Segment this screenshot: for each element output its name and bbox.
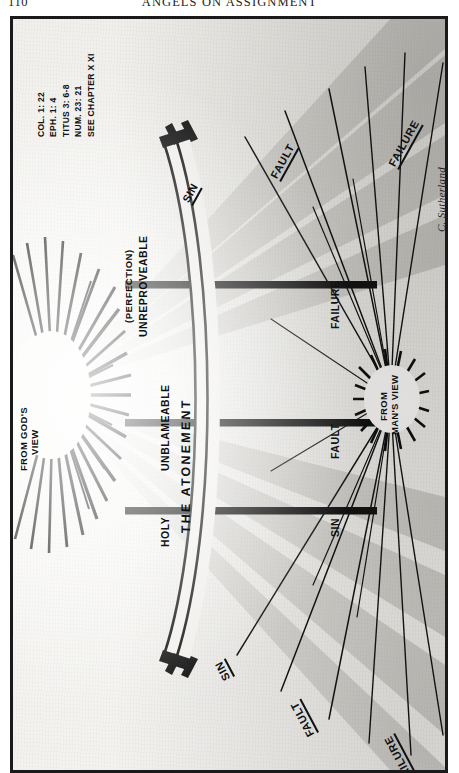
reference-line: COL. 1: 22 <box>35 53 47 137</box>
sun-label-mans-view: FROM MAN'S VIEW <box>379 375 401 435</box>
right-label-failure: FAILURE <box>329 281 341 329</box>
left-label-unreproveable: UNREPROVEABLE <box>137 235 149 337</box>
sun-label-line2: MAN'S VIEW <box>390 375 401 435</box>
right-label-sin: SIN <box>329 518 341 537</box>
left-label-unblameable: UNBLAMEABLE <box>159 384 171 471</box>
reference-line: EPH. 1: 4 <box>47 53 59 137</box>
running-head: ANGELS ON ASSIGNMENT <box>0 0 459 10</box>
reference-line: NUM. 23: 21 <box>72 53 84 137</box>
diagram-plate: COL. 1: 22 EPH. 1: 4 TITUS 3: 6-8 NUM. 2… <box>10 16 448 773</box>
right-label-fault: FAULT <box>329 423 341 459</box>
atonement-title: THE ATONEMENT <box>179 398 193 533</box>
sun-label-gods-view: FROM GOD'S VIEW <box>19 407 41 471</box>
scripture-reference-block: COL. 1: 22 EPH. 1: 4 TITUS 3: 6-8 NUM. 2… <box>35 53 97 137</box>
plate-page: 110 ANGELS ON ASSIGNMENT <box>0 0 459 773</box>
reference-line: TITUS 3: 6-8 <box>60 53 72 137</box>
left-label-text: UNREPROVEABLE <box>137 235 149 337</box>
left-label-holy: HOLY <box>159 517 171 547</box>
artist-signature: C. Sutherland <box>435 167 445 232</box>
left-label-unreproveable-sub: (PERFECTION) <box>123 249 134 323</box>
reference-line: SEE CHAPTER X XI <box>85 53 97 137</box>
sun-label-line2: VIEW <box>30 407 41 455</box>
